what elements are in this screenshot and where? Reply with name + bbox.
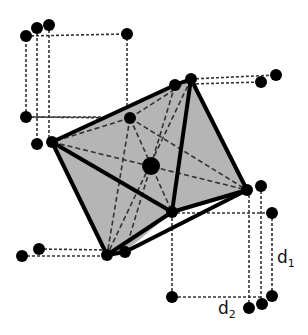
central-atom (142, 157, 160, 175)
label-d1: d1 (277, 247, 295, 270)
label-d2: d2 (218, 298, 236, 321)
octahedron-diagram: d1 d2 (0, 0, 308, 335)
